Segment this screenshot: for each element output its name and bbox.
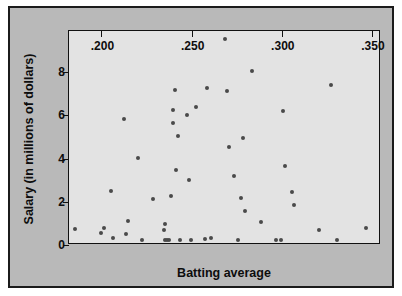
- scatter-point: [223, 37, 227, 41]
- scatter-point: [151, 197, 155, 201]
- figure-outer-frame: 02468 .200.250.300.350 Batting average S…: [8, 6, 394, 288]
- scatter-point: [225, 89, 229, 93]
- scatter-point: [292, 203, 296, 207]
- scatter-point: [317, 228, 321, 232]
- plot-area: 02468 .200.250.300.350: [68, 30, 380, 244]
- scatter-point: [364, 226, 368, 230]
- scatter-point: [111, 236, 115, 240]
- scatter-point: [109, 189, 113, 193]
- scatter-point: [241, 136, 245, 140]
- scatter-point: [163, 222, 167, 226]
- scatter-point: [239, 196, 243, 200]
- x-tick-mark: .200: [101, 31, 102, 37]
- scatter-point: [279, 238, 283, 242]
- scatter-point: [169, 194, 173, 198]
- scatter-point: [122, 117, 126, 121]
- x-tick-mark: .350: [372, 31, 373, 37]
- x-tick-mark: .250: [192, 31, 193, 37]
- x-tick-mark: .300: [282, 31, 283, 37]
- scatter-point: [185, 113, 189, 117]
- scatter-point: [99, 231, 103, 235]
- chart-figure: 02468 .200.250.300.350 Batting average S…: [0, 0, 402, 296]
- scatter-point: [236, 238, 240, 242]
- scatter-point: [140, 238, 144, 242]
- scatter-point: [174, 168, 178, 172]
- scatter-point: [136, 156, 140, 160]
- scatter-point: [274, 238, 278, 242]
- scatter-point: [281, 109, 285, 113]
- scatter-point: [102, 226, 106, 230]
- scatter-point: [194, 105, 198, 109]
- x-tick-label: .200: [91, 39, 114, 53]
- scatter-point: [283, 164, 287, 168]
- y-tick-label: 8: [58, 64, 65, 80]
- scatter-point: [173, 88, 177, 92]
- y-tick-label: 6: [58, 107, 65, 123]
- scatter-point: [176, 134, 180, 138]
- scatter-point: [290, 190, 294, 194]
- scatter-point: [171, 108, 175, 112]
- y-tick-label: 2: [58, 194, 65, 210]
- scatter-point: [171, 121, 175, 125]
- scatter-point: [178, 238, 182, 242]
- x-tick-label: .250: [181, 39, 204, 53]
- scatter-point: [189, 238, 193, 242]
- scatter-point: [335, 238, 339, 242]
- scatter-point: [259, 220, 263, 224]
- scatter-point: [205, 86, 209, 90]
- scatter-point: [126, 219, 130, 223]
- x-axis-title: Batting average: [68, 266, 380, 280]
- scatter-point: [203, 237, 207, 241]
- scatter-point: [329, 83, 333, 87]
- x-tick-label: .300: [271, 39, 294, 53]
- scatter-point: [167, 238, 171, 242]
- scatter-point: [227, 145, 231, 149]
- y-axis-title: Salary (in millions of dollars): [22, 32, 40, 246]
- y-tick-label: 0: [58, 237, 65, 253]
- x-tick-label: .350: [361, 39, 384, 53]
- scatter-point: [187, 178, 191, 182]
- scatter-point: [250, 69, 254, 73]
- scatter-point: [209, 236, 213, 240]
- scatter-point: [232, 174, 236, 178]
- scatter-point: [73, 227, 77, 231]
- y-tick-label: 4: [58, 151, 65, 167]
- scatter-point: [162, 228, 166, 232]
- scatter-point: [124, 232, 128, 236]
- scatter-point: [243, 209, 247, 213]
